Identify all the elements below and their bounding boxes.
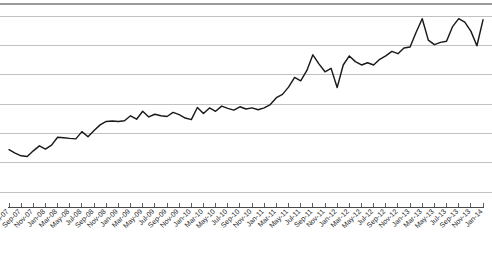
gridlines: [0, 4, 492, 192]
x-axis-labels: Jul-07Sep-07Nov-07Jan-08Mar-08May-08Jul-…: [0, 208, 484, 230]
data-series-line: [9, 19, 483, 157]
line-chart: Jul-07Sep-07Nov-07Jan-08Mar-08May-08Jul-…: [0, 0, 492, 262]
chart-canvas: Jul-07Sep-07Nov-07Jan-08Mar-08May-08Jul-…: [0, 0, 492, 262]
x-axis-ticks: [9, 203, 483, 207]
